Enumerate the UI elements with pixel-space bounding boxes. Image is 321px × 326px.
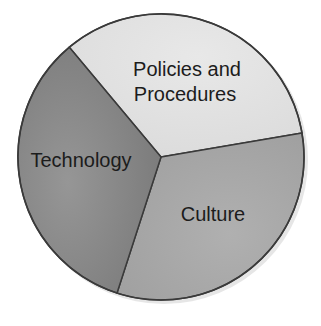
label-culture: Culture [181, 203, 245, 225]
pie-chart: Policies and Procedures Technology Cultu… [0, 0, 321, 326]
label-policies-line2: Procedures [134, 83, 236, 105]
label-technology: Technology [30, 149, 131, 171]
label-policies-line1: Policies and [133, 58, 241, 80]
